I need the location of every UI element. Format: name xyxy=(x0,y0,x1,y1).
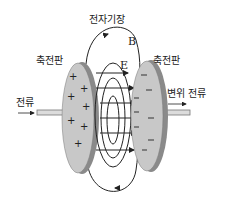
svg-text:+: + xyxy=(67,115,75,126)
electromagnetic-field-label: 전자기장 xyxy=(89,15,125,25)
svg-text:+: + xyxy=(74,138,82,149)
right-plate xyxy=(131,60,168,172)
magnetic-field-symbol: B xyxy=(128,36,136,47)
field-loops xyxy=(95,63,131,167)
current-label: 전류 xyxy=(16,98,34,108)
electric-field-symbol: E xyxy=(120,60,128,71)
left-plate: + + + + + + + xyxy=(62,62,99,174)
svg-text:+: + xyxy=(67,91,75,102)
right-plate-label: 축전판 xyxy=(153,56,180,66)
electric-field-arrows xyxy=(96,73,136,150)
svg-text:+: + xyxy=(80,83,88,94)
left-plate-label: 축전판 xyxy=(36,56,63,66)
svg-text:+: + xyxy=(82,101,90,112)
displacement-current-label: 변위 전류 xyxy=(167,89,206,99)
svg-text:+: + xyxy=(80,121,88,132)
svg-text:+: + xyxy=(69,71,77,82)
